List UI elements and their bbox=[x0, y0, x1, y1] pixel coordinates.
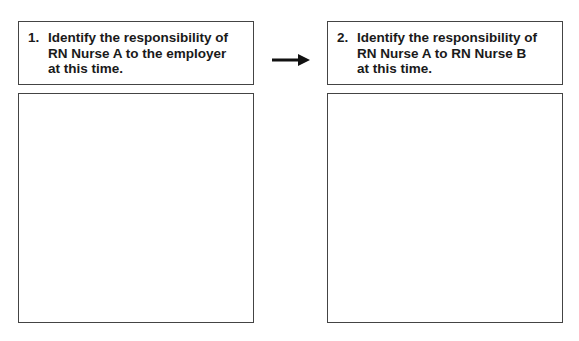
question-1-answer-box[interactable] bbox=[18, 93, 254, 323]
question-1-text: Identify the responsibility of RN Nurse … bbox=[48, 30, 238, 77]
question-1-header: 1. Identify the responsibility of RN Nur… bbox=[18, 21, 254, 85]
question-2-header: 2. Identify the responsibility of RN Nur… bbox=[327, 21, 563, 85]
arrow-right-icon bbox=[272, 54, 310, 66]
question-2-text: Identify the responsibility of RN Nurse … bbox=[357, 30, 542, 77]
question-2-answer-box[interactable] bbox=[327, 93, 563, 323]
question-2-number: 2. bbox=[337, 30, 357, 77]
question-1-number: 1. bbox=[28, 30, 48, 77]
